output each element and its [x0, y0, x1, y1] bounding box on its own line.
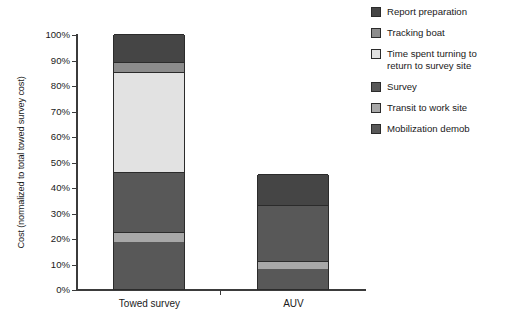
legend-item-label: Tracking boat — [387, 27, 445, 39]
legend-item: Report preparation — [371, 6, 503, 18]
legend-item-label: Transit to work site — [387, 102, 467, 114]
legend-item: Time spent turning to return to survey s… — [371, 48, 503, 71]
legend-item-label: Survey — [387, 81, 417, 93]
y-axis-tick-mark — [72, 137, 77, 138]
y-axis-tick-label: 0% — [34, 285, 70, 295]
bar-segment — [114, 172, 184, 232]
y-axis-tick-mark — [72, 86, 77, 87]
y-axis-tick-mark — [72, 214, 77, 215]
legend-swatch-icon — [371, 82, 381, 92]
y-axis-tick-mark — [72, 61, 77, 62]
legend-item: Tracking boat — [371, 27, 503, 39]
legend-swatch-icon — [371, 28, 381, 38]
bar-segment — [258, 261, 328, 269]
y-axis-tick-mark — [72, 112, 77, 113]
x-axis-category-label: AUV — [233, 298, 353, 309]
bar-segment — [258, 269, 328, 289]
y-axis-tick-label: 40% — [34, 183, 70, 193]
y-axis-label: Cost (normalized to total towed survey c… — [14, 35, 28, 290]
bar-segment — [114, 34, 184, 62]
chart-figure: Cost (normalized to total towed survey c… — [0, 0, 506, 326]
y-axis-tick-labels: 100%90%80%70%60%50%40%30%20%10%0% — [34, 0, 70, 326]
legend-swatch-icon — [371, 7, 381, 17]
y-axis-tick-label: 10% — [34, 260, 70, 270]
legend-item: Survey — [371, 81, 503, 93]
y-axis-tick-mark — [72, 163, 77, 164]
bar-segment — [114, 232, 184, 242]
x-axis-category-label: Towed survey — [89, 298, 209, 309]
y-axis-tick-label: 30% — [34, 209, 70, 219]
bar-segment — [258, 174, 328, 205]
legend-item-label: Report preparation — [387, 6, 467, 18]
plot-area — [76, 35, 364, 290]
y-axis-tick-label: 60% — [34, 132, 70, 142]
legend-item-label: Mobilization demob — [387, 123, 470, 135]
bar-segment — [114, 242, 184, 289]
y-axis-tick-mark — [72, 35, 77, 36]
bar-segment — [114, 72, 184, 171]
legend-item-label: Time spent turning to return to survey s… — [387, 48, 499, 71]
y-axis-tick-mark — [72, 290, 77, 291]
legend-item: Transit to work site — [371, 102, 503, 114]
bar-segment — [114, 62, 184, 72]
stacked-bar — [113, 35, 185, 290]
x-axis-tick-mark — [220, 290, 221, 295]
legend-swatch-icon — [371, 124, 381, 134]
y-axis-tick-mark — [72, 239, 77, 240]
stacked-bar — [257, 175, 329, 290]
chart-legend: Report preparationTracking boatTime spen… — [371, 6, 503, 144]
y-axis-tick-label: 50% — [34, 158, 70, 168]
bar-segment — [258, 205, 328, 261]
y-axis-tick-label: 100% — [34, 30, 70, 40]
legend-swatch-icon — [371, 103, 381, 113]
y-axis-tick-label: 90% — [34, 56, 70, 66]
y-axis-tick-label: 70% — [34, 107, 70, 117]
legend-item: Mobilization demob — [371, 123, 503, 135]
y-axis-tick-mark — [72, 265, 77, 266]
y-axis-tick-mark — [72, 188, 77, 189]
y-axis-tick-label: 80% — [34, 81, 70, 91]
y-axis-tick-label: 20% — [34, 234, 70, 244]
legend-swatch-icon — [371, 49, 381, 59]
